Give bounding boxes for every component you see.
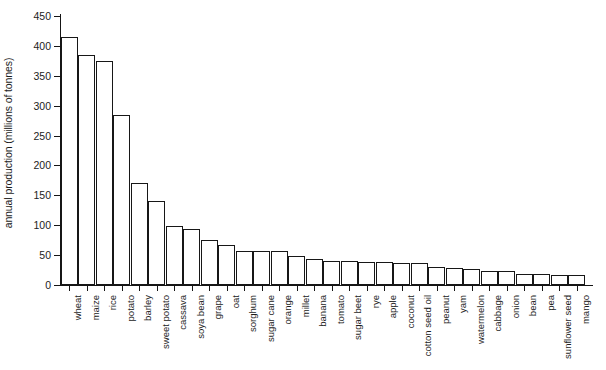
x-tick-mark xyxy=(314,286,315,291)
x-tick-label: sunflower seed xyxy=(563,227,573,293)
x-tick-mark xyxy=(577,286,578,291)
x-tick-mark xyxy=(104,286,105,291)
x-tick-mark xyxy=(402,286,403,291)
x-tick-label: wheat xyxy=(73,266,83,293)
x-tick-label: millet xyxy=(301,269,311,293)
x-tick-mark xyxy=(454,286,455,291)
x-tick-mark xyxy=(489,286,490,291)
x-tick-mark xyxy=(87,286,88,291)
x-tick-label: sorghum xyxy=(248,254,258,293)
y-tick-label: 300 xyxy=(33,99,51,113)
x-tick-mark xyxy=(384,286,385,291)
y-tick-label: 50 xyxy=(39,248,51,262)
x-tick-mark xyxy=(139,286,140,291)
x-tick-label: sweet potato xyxy=(161,237,171,293)
x-tick-label: peanut xyxy=(441,262,451,293)
bar-chart: annual production (millions of tonnes) 0… xyxy=(0,0,606,370)
y-tick-label: 0 xyxy=(45,278,51,292)
x-tick-mark xyxy=(437,286,438,291)
x-tick-label: soya bean xyxy=(196,247,206,293)
y-tick-mark xyxy=(54,106,60,107)
y-tick-label: 100 xyxy=(33,218,51,232)
x-tick-label: orange xyxy=(283,261,293,293)
x-tick-label: coconut xyxy=(406,258,416,293)
x-tick-label: oat xyxy=(231,278,241,293)
x-tick-mark xyxy=(349,286,350,291)
x-tick-mark xyxy=(122,286,123,291)
bar xyxy=(61,37,78,285)
x-tick-label: maize xyxy=(91,266,101,293)
x-tick-label: rice xyxy=(108,276,118,293)
x-tick-label: bean xyxy=(528,270,538,293)
x-tick-mark xyxy=(367,286,368,291)
x-tick-label: mango xyxy=(581,262,591,293)
y-tick-label: 250 xyxy=(33,129,51,143)
x-tick-mark xyxy=(524,286,525,291)
y-tick-label: 150 xyxy=(33,188,51,202)
y-tick-mark xyxy=(54,136,60,137)
y-axis-title: annual production (millions of tonnes) xyxy=(0,0,16,286)
x-tick-mark xyxy=(157,286,158,291)
y-tick-mark xyxy=(54,255,60,256)
x-tick-mark xyxy=(332,286,333,291)
x-tick-label: grape xyxy=(213,267,223,293)
y-tick-label: 200 xyxy=(33,158,51,172)
x-tick-label: barley xyxy=(143,265,153,293)
x-tick-mark xyxy=(174,286,175,291)
y-tick-mark xyxy=(54,285,60,286)
x-tick-mark xyxy=(192,286,193,291)
plot-area xyxy=(61,16,592,285)
x-tick-label: yam xyxy=(458,273,468,293)
x-tick-mark xyxy=(227,286,228,291)
x-tick-mark xyxy=(244,286,245,291)
y-tick-label: 350 xyxy=(33,69,51,83)
bar xyxy=(96,61,113,285)
x-tick-label: sugar cane xyxy=(266,244,276,293)
x-tick-mark xyxy=(559,286,560,291)
x-tick-mark xyxy=(209,286,210,291)
x-tick-label: cabbage xyxy=(493,255,503,293)
x-tick-label: potato xyxy=(126,265,136,293)
x-tick-mark xyxy=(279,286,280,291)
y-tick-label: 400 xyxy=(33,39,51,53)
x-tick-mark xyxy=(69,286,70,291)
x-tick-label: sugar beet xyxy=(353,246,363,293)
y-tick-mark xyxy=(54,46,60,47)
y-tick-mark xyxy=(54,195,60,196)
y-tick-mark xyxy=(54,165,60,166)
y-tick-mark xyxy=(54,16,60,17)
bar xyxy=(113,115,130,285)
bar xyxy=(78,55,95,285)
x-tick-label: rye xyxy=(371,278,381,293)
x-tick-label: apple xyxy=(388,268,398,293)
x-tick-mark xyxy=(419,286,420,291)
x-tick-label: onion xyxy=(511,268,521,293)
x-tick-label: watermelon xyxy=(476,242,486,293)
x-tick-mark xyxy=(262,286,263,291)
x-tick-label: pea xyxy=(546,275,556,293)
y-tick-mark xyxy=(54,225,60,226)
x-tick-label: banana xyxy=(318,259,328,293)
x-tick-label: cotton seed oil xyxy=(423,230,433,293)
y-tick-mark xyxy=(54,76,60,77)
x-tick-mark xyxy=(297,286,298,291)
x-tick-mark xyxy=(542,286,543,291)
x-tick-mark xyxy=(507,286,508,291)
y-tick-label: 450 xyxy=(33,9,51,23)
x-tick-label: tomato xyxy=(336,262,346,293)
x-tick-mark xyxy=(472,286,473,291)
x-tick-label: cassava xyxy=(178,256,188,293)
